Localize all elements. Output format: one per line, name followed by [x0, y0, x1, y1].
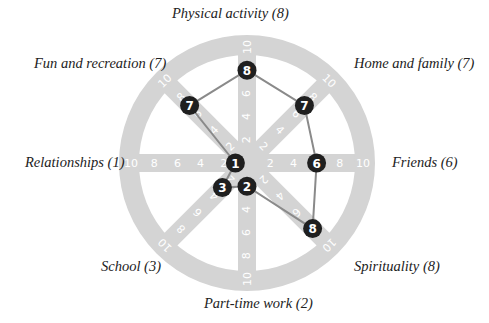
score-marker: 6 — [307, 154, 326, 173]
tick-label: 8 — [151, 157, 158, 170]
tick-label: 6 — [241, 90, 254, 97]
label-friends: Friends (6) — [392, 154, 458, 171]
tick-label: 10 — [356, 157, 370, 170]
label-relationships: Relationships (1) — [25, 154, 124, 171]
tick-label: 2 — [241, 136, 254, 143]
svg-text:3: 3 — [218, 181, 226, 195]
svg-text:7: 7 — [185, 99, 193, 113]
tick-label: 8 — [241, 252, 254, 259]
svg-text:1: 1 — [231, 157, 239, 171]
tick-label: 6 — [241, 229, 254, 236]
label-home-and-family: Home and family (7) — [354, 55, 474, 72]
tick-label: 4 — [290, 157, 297, 170]
score-marker: 2 — [238, 177, 257, 196]
label-part-time-work: Part-time work (2) — [204, 295, 313, 312]
tick-label: 10 — [241, 272, 254, 286]
tick-label: 2 — [267, 157, 274, 170]
tick-label: 10 — [241, 40, 254, 54]
score-marker: 1 — [226, 154, 245, 173]
score-marker: 3 — [213, 178, 232, 197]
svg-text:8: 8 — [243, 64, 251, 78]
tick-label: 10 — [124, 157, 138, 170]
tick-label: 6 — [174, 157, 181, 170]
score-marker: 7 — [295, 96, 314, 115]
label-fun-and-recreation: Fun and recreation (7) — [34, 55, 166, 72]
tick-label: 4 — [241, 113, 254, 120]
svg-text:6: 6 — [312, 157, 320, 171]
score-marker: 8 — [238, 61, 257, 80]
label-spirituality: Spirituality (8) — [354, 258, 440, 275]
tick-label: 8 — [336, 157, 343, 170]
svg-text:7: 7 — [300, 99, 308, 113]
svg-text:8: 8 — [308, 222, 316, 236]
tick-label: 4 — [197, 157, 204, 170]
score-marker: 8 — [303, 219, 322, 238]
tick-label: 4 — [241, 206, 254, 213]
score-marker: 7 — [180, 96, 199, 115]
svg-text:2: 2 — [243, 180, 251, 194]
label-school: School (3) — [101, 258, 161, 275]
label-physical-activity: Physical activity (8) — [172, 5, 289, 22]
